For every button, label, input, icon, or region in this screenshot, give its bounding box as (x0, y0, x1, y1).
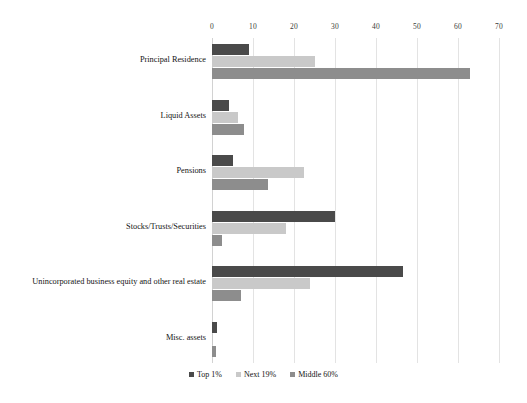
bar-top-1 (212, 322, 217, 333)
bar-middle-60 (212, 235, 222, 246)
category-label: Unincorporated business equity and other… (0, 277, 206, 286)
bar-next-19 (212, 56, 315, 67)
gridline-70 (499, 38, 500, 363)
bar-middle-60 (212, 68, 470, 79)
bar-next-19 (212, 112, 238, 123)
category-group (212, 44, 499, 79)
legend-item: Middle 60% (290, 370, 338, 379)
legend-label: Next 19% (244, 370, 276, 379)
gridline-10 (253, 38, 254, 363)
gridline-60 (458, 38, 459, 363)
category-label: Liquid Assets (0, 111, 206, 120)
bar-next-19 (212, 223, 286, 234)
bar-top-1 (212, 266, 403, 277)
x-tick-label: 40 (372, 22, 380, 31)
x-tick-label: 0 (210, 22, 214, 31)
bar-top-1 (212, 100, 229, 111)
bar-middle-60 (212, 179, 268, 190)
x-tick-label: 60 (454, 22, 462, 31)
category-group (212, 266, 499, 301)
bar-middle-60 (212, 290, 241, 301)
x-tick-label: 70 (495, 22, 503, 31)
bar-top-1 (212, 155, 233, 166)
gridline-20 (294, 38, 295, 363)
category-label: Pensions (0, 166, 206, 175)
legend-label: Top 1% (197, 370, 222, 379)
bar-next-19 (212, 278, 310, 289)
category-label: Stocks/Trusts/Securities (0, 222, 206, 231)
x-tick-label: 10 (249, 22, 257, 31)
plot-gridlines (212, 38, 499, 363)
bar-chart: 010203040506070 Principal ResidenceLiqui… (0, 0, 527, 403)
category-group (212, 322, 499, 357)
legend-item: Next 19% (236, 370, 276, 379)
bar-top-1 (212, 44, 249, 55)
gridline-50 (417, 38, 418, 363)
legend-swatch-icon (189, 372, 194, 377)
category-group (212, 100, 499, 135)
legend-label: Middle 60% (298, 370, 338, 379)
x-tick-label: 20 (290, 22, 298, 31)
x-axis-ticks: 010203040506070 (212, 22, 499, 36)
bar-next-19 (212, 167, 304, 178)
gridline-40 (376, 38, 377, 363)
x-tick-label: 30 (331, 22, 339, 31)
legend-swatch-icon (290, 372, 295, 377)
bar-middle-60 (212, 124, 244, 135)
legend-swatch-icon (236, 372, 241, 377)
bar-top-1 (212, 211, 335, 222)
category-label: Principal Residence (0, 55, 206, 64)
gridline-0 (212, 38, 213, 363)
bar-next-19 (212, 334, 213, 345)
chart-legend: Top 1%Next 19%Middle 60% (0, 370, 527, 379)
legend-item: Top 1% (189, 370, 222, 379)
category-group (212, 155, 499, 190)
x-tick-label: 50 (413, 22, 421, 31)
category-group (212, 211, 499, 246)
bar-middle-60 (212, 346, 216, 357)
gridline-30 (335, 38, 336, 363)
category-label: Misc. assets (0, 333, 206, 342)
